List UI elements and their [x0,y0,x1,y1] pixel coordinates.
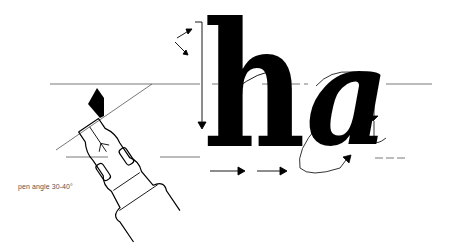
letter-h: h [203,0,306,172]
serif-entry-arrows [175,22,206,129]
calligraphy-pen-nib-icon [64,88,180,243]
pen-angle-caption: pen angle 30-40° [18,183,73,190]
calligraphy-diagram: h a pen angle 30-40° [0,0,451,252]
letter-a: a [306,28,390,164]
pen-angle-line [56,84,152,150]
